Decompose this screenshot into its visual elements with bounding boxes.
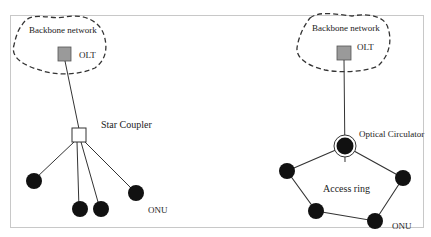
olt-node-left [58,47,71,61]
olt-node-right [337,46,351,60]
onu-node [279,163,295,179]
backbone-label-right: Backbone network [312,24,380,33]
optical-circulator [337,138,354,155]
access-ring-label: Access ring [323,184,370,194]
onu-node [72,201,88,217]
onu-node [93,201,109,217]
onu-node [308,203,324,219]
star-coupler [72,128,86,142]
onu-node [128,185,144,201]
onu-label-right: ONU [392,222,412,231]
olt-label-left: OLT [79,51,96,60]
backbone-label-left: Backbone network [29,26,97,35]
onu-node [26,173,42,189]
optical-circulator-label: Optical Circulator [359,130,424,139]
onu-label-left: ONU [148,206,168,215]
onu-node [395,170,411,186]
olt-label-right: OLT [357,43,374,52]
network-topology-diagram: Backbone network OLT Star Coupler ONU Ba… [0,0,431,237]
diagram-canvas [0,0,431,237]
onu-node [367,213,383,229]
star-coupler-label: Star Coupler [101,120,152,130]
